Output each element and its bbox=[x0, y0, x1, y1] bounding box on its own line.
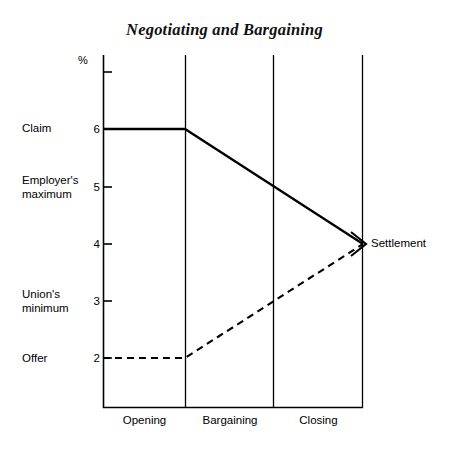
y-tick-label-4: 4 bbox=[78, 238, 100, 250]
phase-label-closing: Closing bbox=[274, 414, 363, 426]
row-label-employers-maximum-line1: Employer's bbox=[22, 174, 79, 186]
phase-label-opening: Opening bbox=[103, 414, 186, 426]
y-axis-unit-label: % bbox=[78, 54, 88, 66]
series-solid-employer-line bbox=[103, 129, 363, 244]
row-label-employers-maximum-line2: maximum bbox=[22, 188, 72, 200]
row-label-employers-maximum: Employer's maximum bbox=[22, 174, 92, 201]
series-dashed-union-line bbox=[103, 244, 363, 358]
settlement-arrowhead-icon bbox=[351, 232, 366, 256]
row-label-unions-minimum-line1: Union's bbox=[22, 288, 60, 300]
row-label-unions-minimum-line2: minimum bbox=[22, 302, 69, 314]
phase-label-bargaining: Bargaining bbox=[186, 414, 274, 426]
chart-plot-area bbox=[0, 0, 449, 458]
row-label-unions-minimum: Union's minimum bbox=[22, 288, 92, 315]
row-label-offer: Offer bbox=[22, 352, 92, 366]
row-label-claim: Claim bbox=[22, 122, 92, 136]
negotiation-chart-figure: Negotiating and Bargaining % 6 5 4 3 2 C… bbox=[0, 0, 449, 458]
settlement-annotation-label: Settlement bbox=[371, 237, 426, 249]
